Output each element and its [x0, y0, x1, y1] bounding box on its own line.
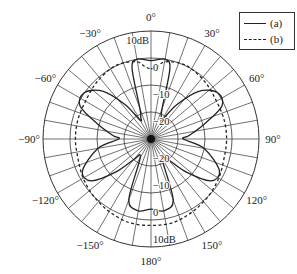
center-point — [147, 135, 155, 143]
radial-label-bottom: −20 — [153, 153, 169, 164]
radial-label-top: 0 — [153, 62, 158, 73]
legend-entry-b: (b) — [244, 32, 283, 46]
radial-label-bottom: −10 — [153, 180, 169, 191]
radial-label-top: −10 — [153, 89, 169, 100]
solid-line-icon — [244, 23, 266, 24]
angle-label: 60° — [249, 72, 264, 84]
dashed-line-icon — [244, 39, 266, 40]
radial-label-top: −20 — [153, 116, 169, 127]
angle-label: −30° — [79, 27, 101, 39]
legend: (a) (b) — [239, 12, 295, 50]
angle-label: −120° — [32, 194, 59, 206]
angle-label: −150° — [76, 239, 103, 251]
angle-label: 0° — [146, 11, 156, 23]
radial-label-bottom: 10dB — [153, 234, 176, 245]
radial-label-bottom: 0 — [153, 207, 158, 218]
radial-label-top: 10dB — [126, 35, 149, 46]
legend-label-a: (a) — [270, 17, 282, 29]
angle-label: −90° — [18, 133, 40, 145]
angle-label: 180° — [141, 255, 162, 267]
angle-label: 90° — [265, 133, 280, 145]
legend-entry-a: (a) — [244, 16, 282, 30]
angle-label: 120° — [246, 194, 267, 206]
angle-label: 30° — [204, 27, 219, 39]
angle-label: −60° — [34, 72, 56, 84]
angle-label: 150° — [202, 239, 223, 251]
legend-label-b: (b) — [270, 33, 283, 45]
